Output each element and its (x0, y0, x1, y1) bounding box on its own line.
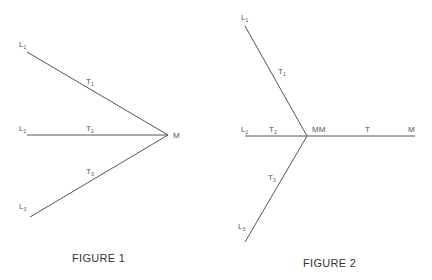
fig2-label-t3: T3 (268, 174, 276, 183)
fig1-label-t3: T3 (86, 168, 94, 177)
fig1-line-l3-m (30, 135, 168, 217)
fig2-label-t2: T2 (269, 126, 277, 135)
fig2-label-t1: T1 (278, 68, 286, 77)
figure-1-caption: FIGURE 1 (72, 252, 125, 264)
figure-2-caption: FIGURE 2 (303, 257, 356, 269)
fig2-label-l3: L3 (238, 223, 245, 232)
fig2-line-l1-mm (245, 26, 307, 136)
fig1-label-t2: T2 (86, 125, 94, 134)
fig2-label-l1: L1 (241, 14, 248, 23)
fig2-label-l2: L2 (241, 126, 248, 135)
fig1-label-l3: L3 (19, 203, 26, 212)
fig1-line-l1-m (27, 52, 168, 135)
fig2-line-l3-mm (245, 136, 307, 242)
fig2-label-t: T (365, 126, 370, 134)
fig2-label-mm: MM (312, 126, 325, 134)
fig1-label-l1: L1 (19, 41, 26, 50)
fig2-label-m: M (408, 126, 415, 134)
fig1-label-m: M (173, 132, 180, 140)
figure-1-lines (27, 52, 168, 217)
diagram-lines (0, 0, 432, 280)
fig1-label-l2: L2 (19, 125, 26, 134)
fig1-label-t1: T1 (86, 78, 94, 87)
